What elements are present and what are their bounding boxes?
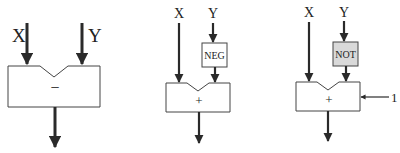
input-y-label: Y bbox=[208, 6, 218, 21]
input-y-label: Y bbox=[88, 25, 102, 46]
subtractor-diagram: X Y − bbox=[8, 23, 102, 147]
operation-label: − bbox=[50, 79, 59, 96]
input-x-label: X bbox=[304, 5, 314, 20]
input-x-label: X bbox=[174, 6, 184, 21]
carry-in-label: 1 bbox=[391, 90, 398, 105]
adder-not-diagram: X Y NOT + 1 bbox=[296, 5, 398, 141]
input-x-label: X bbox=[12, 25, 26, 46]
neg-label: NEG bbox=[204, 50, 225, 61]
not-label: NOT bbox=[335, 49, 356, 60]
alu-diagrams: X Y − X Y NEG + X Y NOT + 1 bbox=[0, 0, 400, 153]
adder-neg-diagram: X Y NEG + bbox=[166, 6, 230, 143]
operation-label: + bbox=[325, 92, 332, 107]
operation-label: + bbox=[195, 93, 202, 108]
input-y-label: Y bbox=[339, 5, 349, 20]
